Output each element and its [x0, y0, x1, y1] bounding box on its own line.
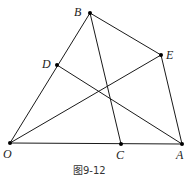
figure-caption: 图9-12 [73, 165, 106, 175]
segment-be [90, 13, 161, 55]
point-a [180, 142, 184, 146]
label-o: O [3, 147, 12, 161]
point-b [88, 11, 92, 15]
label-d: D [41, 57, 51, 71]
point-d [55, 63, 59, 67]
segment-oe [10, 55, 161, 143]
points [8, 11, 184, 146]
segment-ea [161, 55, 182, 144]
point-e [159, 53, 163, 57]
label-b: B [74, 5, 82, 19]
label-e: E [165, 48, 174, 62]
segment-oa [10, 143, 182, 144]
label-c: C [116, 148, 125, 162]
segment-bc [90, 13, 121, 144]
segments [10, 13, 182, 144]
point-o [8, 141, 12, 145]
geometry-figure: OBEDCA 图9-12 [0, 0, 188, 175]
label-a: A [175, 148, 184, 162]
point-c [119, 142, 123, 146]
